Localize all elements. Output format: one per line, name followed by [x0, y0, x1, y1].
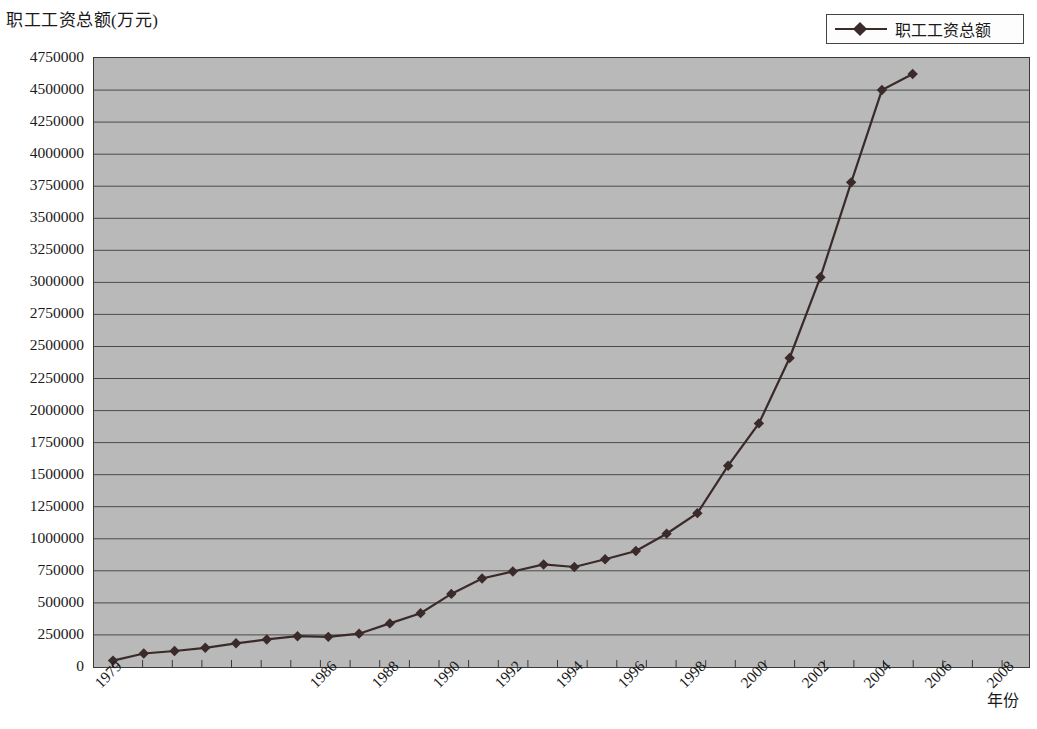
x-axis-tick-labels: 1979198619881990199219941996199820002002… — [0, 0, 1037, 729]
x-axis-tick-label: 1992 — [491, 657, 526, 692]
x-axis-tick-label: 2002 — [798, 657, 833, 692]
x-axis-tick-label: 1986 — [306, 657, 341, 692]
x-axis-tick-label: 1988 — [368, 657, 403, 692]
x-axis-tick-label: 1979 — [91, 657, 126, 692]
x-axis-title: 年份 — [987, 687, 1019, 711]
x-axis-tick-label: 1998 — [675, 657, 710, 692]
x-axis-tick-label: 1990 — [429, 657, 464, 692]
line-chart: 职工工资总额(万元) 职工工资总额 4750000450000042500004… — [0, 0, 1037, 729]
x-axis-tick-label: 2004 — [860, 657, 895, 692]
x-axis-tick-label: 2006 — [921, 657, 956, 692]
x-axis-tick-label: 1994 — [552, 657, 587, 692]
x-axis-tick-label: 2000 — [737, 657, 772, 692]
x-axis-tick-label: 1996 — [614, 657, 649, 692]
